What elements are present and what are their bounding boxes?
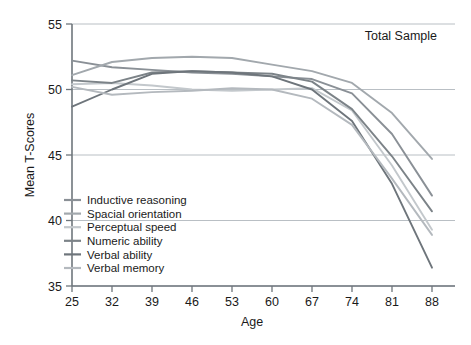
total-sample-annotation: Total Sample: [365, 29, 437, 43]
legend-label-numeric-ability: Numeric ability: [87, 235, 163, 247]
y-tick-label: 45: [48, 149, 62, 163]
chart-container: 354045505525323946536067748188AgeMean T-…: [0, 0, 471, 345]
y-tick-label: 55: [48, 18, 62, 32]
x-tick-label: 39: [145, 295, 159, 309]
series-line-spacial-orientation: [72, 57, 432, 159]
x-tick-label: 74: [345, 295, 359, 309]
legend-label-verbal-ability: Verbal ability: [87, 249, 152, 261]
x-tick-label: 81: [385, 295, 399, 309]
series-line-inductive-reasoning: [72, 61, 432, 196]
y-axis-title: Mean T-Scores: [23, 113, 37, 198]
y-tick-label: 40: [48, 214, 62, 228]
y-tick-label: 35: [48, 280, 62, 294]
legend-label-spacial-orientation: Spacial orientation: [87, 208, 182, 220]
line-chart: 354045505525323946536067748188AgeMean T-…: [0, 0, 471, 345]
series-line-numeric-ability: [72, 71, 432, 211]
x-tick-label: 53: [225, 295, 239, 309]
x-tick-label: 60: [265, 295, 279, 309]
x-tick-label: 25: [65, 295, 79, 309]
x-tick-label: 32: [105, 295, 119, 309]
legend-label-verbal-memory: Verbal memory: [87, 262, 165, 274]
x-tick-label: 67: [305, 295, 319, 309]
legend-label-inductive-reasoning: Inductive reasoning: [87, 194, 187, 206]
legend-label-perceptual-speed: Perceptual speed: [87, 221, 177, 233]
x-tick-label: 88: [425, 295, 439, 309]
x-axis-title: Age: [241, 315, 263, 329]
x-tick-label: 46: [185, 295, 199, 309]
y-tick-label: 50: [48, 83, 62, 97]
